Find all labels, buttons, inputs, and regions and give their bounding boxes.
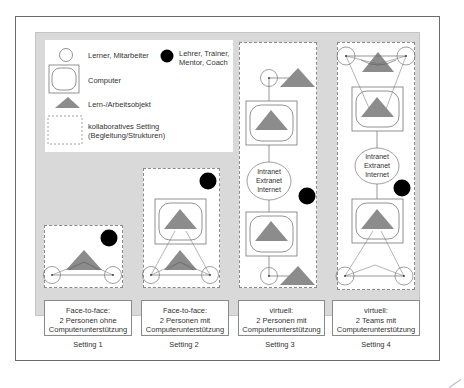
caption-line: Computerunterstützung [45, 325, 131, 335]
caption-line: Computerunterstützung [239, 325, 324, 335]
teacher-icon [299, 188, 316, 205]
network-label-3: Internet [257, 186, 281, 193]
setting-1-diagram [44, 230, 122, 284]
setting-2-caption: Face-to-face: 2 Personen mit Computerunt… [141, 300, 229, 336]
object-icon [280, 68, 315, 87]
network-label-1: Intranet [365, 153, 389, 160]
setting-1-caption: Face-to-face: 2 Personen ohne Computerun… [44, 300, 132, 336]
caption-line: Computerunterstützung [333, 325, 419, 335]
setting-3-diagram: Intranet Extranet Internet [246, 68, 316, 285]
caption-line: Face-to-face: [45, 306, 131, 316]
caption-line: 2 Personen mit [239, 316, 324, 326]
caption-line: 2 Personen mit [142, 316, 228, 326]
caption-line: 2 Personen ohne [45, 316, 131, 326]
setting-4-diagram: Intranet Extranet Internet [336, 47, 415, 285]
object-icon [280, 266, 315, 285]
caption-line: virtuell: [239, 306, 324, 316]
network-label-1: Intranet [257, 168, 281, 175]
caption-line: 2 Teams mit [333, 316, 419, 326]
setting-2-diagram [143, 173, 219, 284]
setting-4-label: Setting 4 [336, 340, 416, 349]
setting-3-caption: virtuell: 2 Personen mit Computerunterst… [238, 300, 325, 336]
teacher-icon [394, 180, 411, 197]
teacher-icon [200, 173, 217, 190]
setting-3-label: Setting 3 [240, 340, 320, 349]
teacher-icon [101, 230, 118, 247]
network-label-2: Extranet [256, 177, 282, 184]
caption-line: Computerunterstützung [142, 325, 228, 335]
caption-line: virtuell: [333, 306, 419, 316]
network-label-2: Extranet [364, 162, 390, 169]
setting-2-label: Setting 2 [144, 340, 224, 349]
setting-4-caption: virtuell: 2 Teams mit Computerunterstütz… [332, 300, 420, 336]
setting-1-label: Setting 1 [48, 340, 128, 349]
network-label-3: Internet [365, 171, 389, 178]
object-icon [362, 52, 394, 72]
caption-line: Face-to-face: [142, 306, 228, 316]
